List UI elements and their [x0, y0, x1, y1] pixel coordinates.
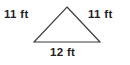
geometry-figure: 11 ft 11 ft 12 ft [0, 0, 130, 65]
side-label-left-leg: 11 ft [4, 9, 29, 21]
side-label-base: 12 ft [50, 47, 75, 59]
side-label-right-leg: 11 ft [88, 9, 113, 21]
